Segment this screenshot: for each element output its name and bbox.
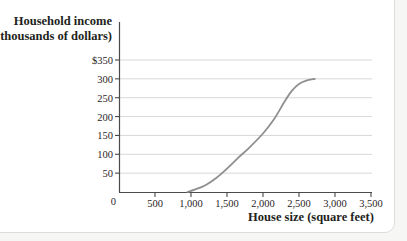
y-tick-label: 150 — [97, 130, 113, 141]
x-tick-label: 1,000 — [179, 198, 203, 209]
screenshot-root: Household income (thousands of dollars) … — [0, 0, 407, 241]
origin-tick-label: 0 — [111, 196, 116, 207]
x-tick-label: 3,500 — [359, 198, 383, 209]
y-tick-label: 100 — [97, 149, 113, 160]
x-tick-label: 2,500 — [287, 198, 311, 209]
x-tick-label: 1,500 — [215, 198, 239, 209]
x-tick-label: 3,000 — [323, 198, 347, 209]
scatter-line-chart: Household income (thousands of dollars) … — [0, 0, 407, 241]
y-tick-label: 200 — [97, 111, 113, 122]
y-axis-title: Household income (thousands of dollars) — [0, 14, 112, 45]
y-tick-label: $350 — [92, 55, 113, 66]
x-tick-label: 2,000 — [251, 198, 275, 209]
y-tick-label: 250 — [97, 92, 113, 103]
x-tick-label: 500 — [147, 198, 163, 209]
x-axis-title: House size (square feet) — [248, 210, 374, 225]
y-tick-label: 300 — [97, 73, 113, 84]
y-axis-title-line2: (thousands of dollars) — [0, 29, 112, 44]
y-axis-title-line1: Household income — [0, 14, 112, 29]
y-tick-label: 50 — [103, 168, 114, 179]
